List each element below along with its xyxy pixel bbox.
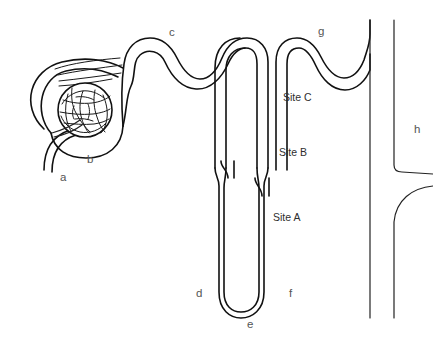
label-g: g (318, 26, 324, 37)
ascending-limb-inner-wall (226, 48, 245, 168)
glomerulus-group (52, 83, 112, 137)
collecting-duct-right-wall-lower (394, 186, 433, 318)
collecting-duct-group (370, 20, 433, 318)
limb-thin-segment-marks (221, 161, 269, 196)
capillary-strand-3 (59, 73, 121, 81)
ascending-limb-group (215, 38, 245, 168)
label-f: f (289, 288, 292, 299)
label-site-c: Site C (283, 92, 312, 103)
label-site-a: Site A (273, 212, 300, 223)
descending-narrowing-left (221, 161, 228, 178)
nephron-svg (0, 0, 433, 337)
label-h: h (414, 124, 420, 135)
label-e: e (247, 319, 253, 330)
descending-limb-inner-wall (224, 168, 259, 312)
label-c: c (169, 27, 175, 38)
label-site-b: Site B (279, 147, 307, 158)
collecting-duct-right-wall-upper (394, 20, 433, 174)
label-b: b (87, 154, 93, 165)
label-d: d (196, 288, 202, 299)
ascending-limb-outer-wall (215, 38, 240, 168)
proximal-convoluted-tubule-group (122, 38, 268, 168)
pct-outer-wall (122, 38, 268, 168)
nephron-diagram-figure: a b c d e f g h Site C Site B Site A (0, 0, 433, 337)
pct-inner-wall (123, 48, 257, 168)
label-a: a (60, 172, 66, 183)
